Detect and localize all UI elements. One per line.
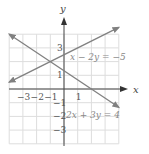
axes: x y bbox=[9, 3, 139, 146]
y-axis-arrow-icon bbox=[61, 17, 67, 25]
x-tick-label: 1 bbox=[76, 92, 82, 102]
y-tick-label: −2 bbox=[53, 111, 66, 121]
x-tick-label: −3 bbox=[17, 92, 31, 102]
y-axis-label: y bbox=[59, 3, 66, 14]
y-tick-label: 1 bbox=[57, 70, 63, 80]
y-tick-label: 3 bbox=[57, 43, 63, 53]
y-tick-label: −1 bbox=[53, 98, 66, 108]
x-axis-label: x bbox=[133, 84, 139, 95]
graph: x y −3−2−1131−1−2−3 x − 2y = −5 2x + 3y … bbox=[0, 0, 149, 154]
x-axis-arrow-icon bbox=[120, 86, 128, 92]
y-tick-label: −3 bbox=[53, 125, 67, 135]
x-tick-label: −2 bbox=[31, 92, 44, 102]
equation-label-1: x − 2y = −5 bbox=[70, 52, 126, 62]
equation-label-2: 2x + 3y = 4 bbox=[65, 110, 120, 120]
